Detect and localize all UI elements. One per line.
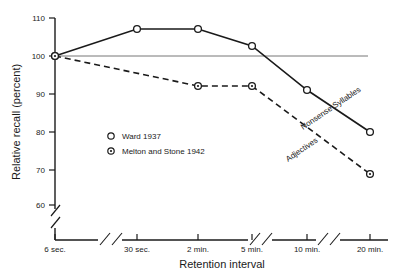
x-axis-title: Retention interval [179, 258, 265, 270]
annotation-adjectives: Adjectives [284, 136, 319, 164]
legend-item-melton-stone-1942: Melton and Stone 1942 [108, 147, 205, 156]
melton-point-6sec [52, 53, 59, 60]
ward-point-30sec [134, 26, 141, 33]
x-tick-label-30sec: 30 sec. [124, 245, 150, 254]
y-tick-label-110: 110 [32, 14, 45, 23]
legend-label-melton-stone-1942: Melton and Stone 1942 [122, 147, 205, 156]
x-axis-break-icon-1 [100, 233, 122, 245]
y-axis: 110 100 90 80 70 60 Relative recall (per… [10, 14, 60, 240]
series-ward-1937: Nonsense Syllables [52, 26, 374, 136]
x-tick-label-2min: 2 min. [187, 245, 209, 254]
y-tick-label-70: 70 [36, 166, 45, 175]
ward-point-5min [249, 43, 256, 50]
legend: Ward 1937 Melton and Stone 1942 [108, 132, 205, 156]
ward-point-20min [367, 129, 374, 136]
chart-figure: 110 100 90 80 70 60 Relative recall (per… [0, 0, 400, 275]
melton-point-2min [195, 83, 202, 90]
x-axis-break-icon-3 [318, 233, 340, 245]
melton-point-20min [367, 171, 374, 178]
x-axis-break-icon-2 [250, 233, 272, 245]
melton-point-5min [249, 83, 256, 90]
ward-point-10min [304, 87, 311, 94]
y-tick-label-60: 60 [36, 201, 45, 210]
x-tick-label-6sec: 6 sec. [44, 245, 65, 254]
y-tick-label-80: 80 [36, 128, 45, 137]
x-tick-label-5min: 5 min. [241, 245, 263, 254]
x-tick-label-20min: 20 min. [357, 245, 383, 254]
recall-retention-line-chart: 110 100 90 80 70 60 Relative recall (per… [0, 0, 400, 275]
x-axis: 6 sec. 30 sec. 2 min. 5 min. 10 min. 20 … [44, 233, 388, 270]
y-tick-label-90: 90 [36, 90, 45, 99]
x-tick-label-10min: 10 min. [294, 245, 320, 254]
legend-item-ward-1937: Ward 1937 [108, 132, 162, 141]
legend-marker-open-circle-icon [108, 133, 114, 139]
legend-label-ward-1937: Ward 1937 [122, 132, 161, 141]
y-tick-label-100: 100 [32, 52, 46, 61]
ward-point-2min [195, 26, 202, 33]
y-axis-title: Relative recall (percent) [10, 64, 22, 180]
legend-marker-dot-icon [110, 150, 112, 152]
